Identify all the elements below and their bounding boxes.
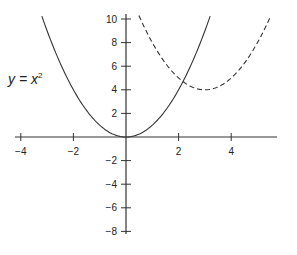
y-tick-label: 8 [111,37,117,48]
x-tick-label: 4 [228,146,234,157]
y-tick-label: −6 [106,202,118,213]
curve-dashed-shifted-parabola [139,16,271,90]
y-tick-label: 2 [111,108,117,119]
y-tick-label: −2 [106,155,118,166]
y-tick-label: 6 [111,61,117,72]
axes [15,14,277,234]
x-tick-label: −2 [68,146,80,157]
y-ticks: 108642−2−4−6−8 [106,14,131,237]
curve-label-superscript: 2 [38,71,43,80]
curve-label-main: y = x [7,71,39,87]
x-tick-label: −4 [15,146,27,157]
y-tick-label: 10 [106,14,118,25]
parabola-plot: −4−224 108642−2−4−6−8 y = x2 [0,0,297,255]
curve-label-y-equals-x-squared: y = x2 [7,71,43,87]
y-tick-label: −4 [106,179,118,190]
curves [42,16,271,137]
y-tick-label: 4 [111,84,117,95]
y-tick-label: −8 [106,226,118,237]
x-tick-label: 2 [176,146,182,157]
